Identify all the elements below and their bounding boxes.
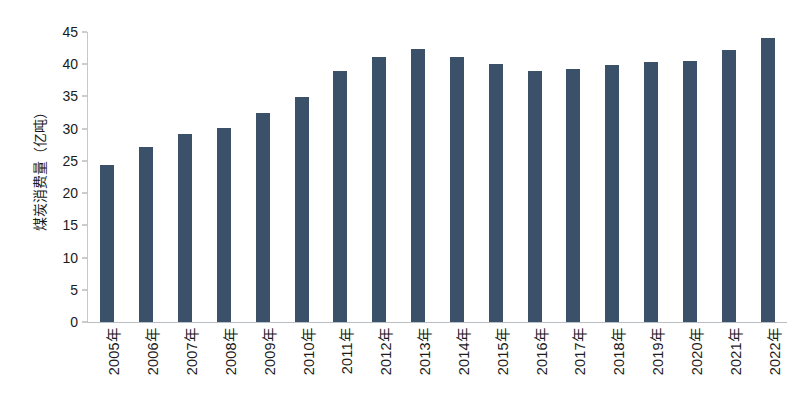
x-axis-tick-label: 2006年 [141,281,162,328]
x-axis-tick-label: 2015年 [491,281,512,328]
x-axis-tick-labels: 2005年2006年2007年2008年2009年2010年2011年2012年… [88,326,787,408]
x-axis-tick-label: 2019年 [646,281,667,328]
y-axis-tick-label: 0 [70,314,78,330]
x-axis-tick-label: 2010年 [297,281,318,328]
bar-group[interactable] [593,32,632,322]
bar-group[interactable] [671,32,710,322]
chart-screenshot: 煤炭消费量（亿吨） 051015202530354045 2005年2006年2… [0,0,797,411]
y-axis-tick-label: 5 [70,282,78,298]
y-axis-tick-label: 10 [62,250,78,266]
bar-group[interactable] [282,32,321,322]
y-axis-tick-labels: 051015202530354045 [48,24,78,322]
x-axis-tick-label: 2014年 [452,281,473,328]
bar-group[interactable] [360,32,399,322]
bar-group[interactable] [515,32,554,322]
bar-group[interactable] [748,32,787,322]
y-axis-tick-label: 30 [62,121,78,137]
bar-group[interactable] [127,32,166,322]
x-axis-tick-label: 2005年 [102,281,123,328]
bar-group[interactable] [166,32,205,322]
bar-group[interactable] [476,32,515,322]
x-axis-tick-label: 2013年 [413,281,434,328]
x-axis-tick-label: 2020年 [685,281,706,328]
y-axis-tick-label: 45 [62,24,78,40]
x-axis-tick-label: 2012年 [374,281,395,328]
bar-group[interactable] [438,32,477,322]
y-axis-tick-label: 20 [62,185,78,201]
bar-group[interactable] [321,32,360,322]
x-axis-tick-label: 2016年 [530,281,551,328]
bar[interactable] [761,38,775,322]
x-axis-tick-label: 2007年 [180,281,201,328]
y-axis-tick-label: 25 [62,153,78,169]
y-axis-tick-label: 35 [62,88,78,104]
y-axis-tick-label: 15 [62,217,78,233]
x-axis-tick-label: 2009年 [258,281,279,328]
bar-group[interactable] [243,32,282,322]
bar-group[interactable] [399,32,438,322]
y-axis-tick-label: 40 [62,56,78,72]
x-axis-tick-label: 2011年 [335,282,356,328]
bar-group[interactable] [632,32,671,322]
bar-group[interactable] [554,32,593,322]
x-axis-tick-label: 2008年 [219,281,240,328]
x-axis-tick-label: 2022年 [763,281,784,328]
plot-area [88,32,787,322]
bar-group[interactable] [709,32,748,322]
x-axis-tick-label: 2018年 [607,281,628,328]
x-axis-tick-label: 2017年 [568,281,589,328]
x-axis-tick-label: 2021年 [724,281,745,328]
bar-group[interactable] [205,32,244,322]
bar-group[interactable] [88,32,127,322]
bar-chart-figure: 煤炭消费量（亿吨） 051015202530354045 2005年2006年2… [0,0,797,411]
